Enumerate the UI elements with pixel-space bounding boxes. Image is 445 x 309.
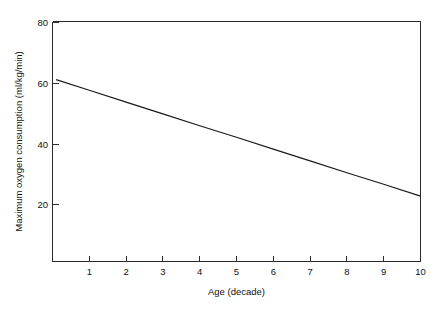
x-tick-label-6: 6	[271, 266, 276, 277]
y-axis-title: Maximum oxygen consumption (ml/kg/min)	[13, 51, 24, 232]
chart-background	[0, 0, 445, 309]
x-tick-label-4: 4	[197, 266, 202, 277]
chart-figure: 80 60 40 20 1 2 3 4 5 6 7 8	[0, 0, 445, 309]
x-tick-label-3: 3	[160, 266, 165, 277]
x-axis-title: Age (decade)	[208, 286, 265, 297]
x-tick-label-5: 5	[234, 266, 239, 277]
x-tick-label-7: 7	[307, 266, 312, 277]
x-tick-label-10: 10	[415, 266, 426, 277]
x-tick-label-1: 1	[87, 266, 92, 277]
y-tick-label-40: 40	[37, 139, 48, 150]
x-tick-label-8: 8	[344, 266, 349, 277]
y-tick-label-20: 20	[37, 199, 48, 210]
x-tick-label-2: 2	[123, 266, 128, 277]
line-chart: 80 60 40 20 1 2 3 4 5 6 7 8	[0, 0, 445, 309]
x-tick-label-9: 9	[381, 266, 386, 277]
y-tick-label-80: 80	[37, 17, 48, 28]
y-tick-label-60: 60	[37, 78, 48, 89]
